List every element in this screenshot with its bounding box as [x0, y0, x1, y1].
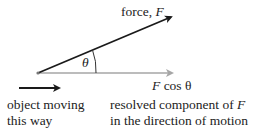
component-caption-prefix: resolved component of	[110, 97, 237, 112]
component-symbol: F	[152, 78, 160, 93]
motion-caption: object moving this way	[7, 97, 85, 129]
motion-caption-line1: object moving	[7, 97, 85, 113]
force-arrow	[38, 17, 171, 73]
component-label: F cos θ	[152, 78, 191, 94]
component-label-rest: cos θ	[160, 78, 191, 93]
origin-point	[36, 71, 39, 74]
angle-label: θ	[82, 55, 89, 71]
component-caption-line1: resolved component of F	[110, 97, 248, 113]
angle-arc	[93, 50, 97, 73]
force-symbol: F	[155, 4, 163, 19]
force-label-prefix: force,	[121, 4, 155, 19]
component-caption-line2: in the direction of motion	[110, 113, 248, 129]
motion-caption-line2: this way	[7, 113, 85, 129]
force-label: force, F	[121, 4, 164, 20]
component-caption-symbol: F	[237, 97, 245, 112]
component-caption: resolved component of F in the direction…	[110, 97, 248, 129]
